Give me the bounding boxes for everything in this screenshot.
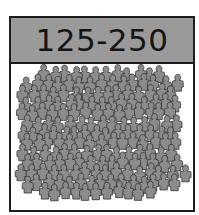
crowd-size-card: 125-250 (9, 16, 195, 212)
card-header: 125-250 (11, 18, 193, 64)
crowd-of-people-icon (11, 64, 193, 210)
crowd-size-range-label: 125-250 (35, 25, 168, 56)
